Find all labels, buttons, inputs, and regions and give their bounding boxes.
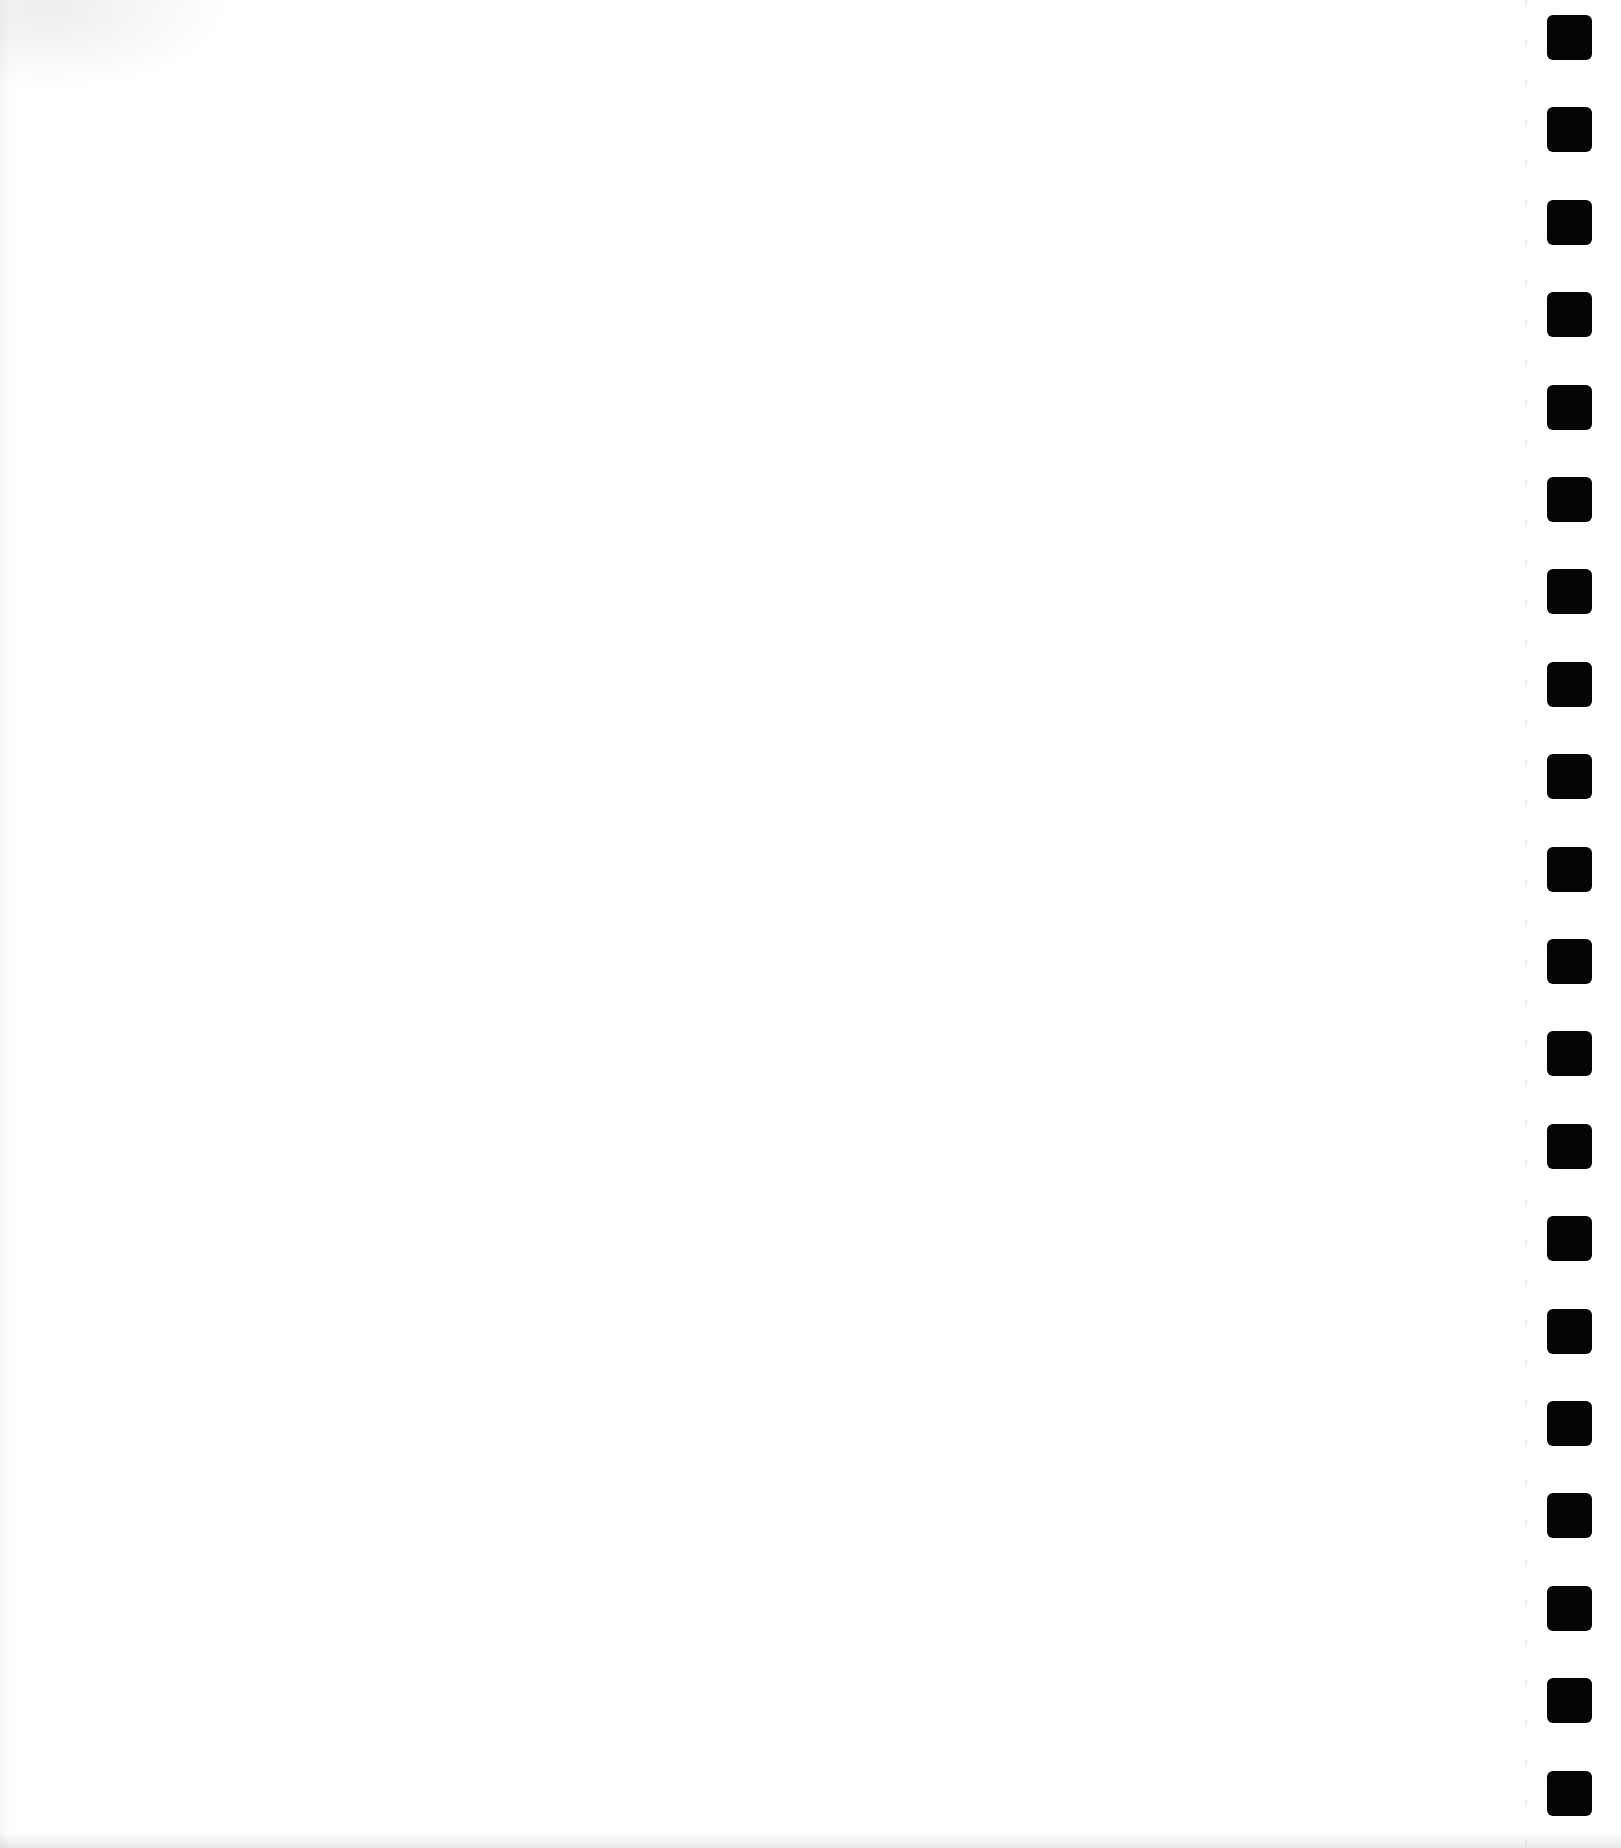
binding-hole (1547, 1031, 1592, 1076)
scan-corner-smudge (0, 0, 230, 90)
binding-hole (1547, 292, 1592, 337)
spiral-binding-holes (1547, 0, 1593, 1848)
binding-hole (1547, 1124, 1592, 1169)
binding-hole (1547, 107, 1592, 152)
binding-hole (1547, 1309, 1592, 1354)
binding-hole (1547, 569, 1592, 614)
binding-hole (1547, 477, 1592, 522)
binding-hole (1547, 385, 1592, 430)
binding-hole (1547, 1216, 1592, 1261)
binding-hole (1547, 1493, 1592, 1538)
binding-hole (1547, 1771, 1592, 1816)
binding-hole (1547, 1586, 1592, 1631)
binding-hole (1547, 754, 1592, 799)
notebook-page (0, 0, 1621, 1848)
binding-hole (1547, 1678, 1592, 1723)
binding-hole (1547, 939, 1592, 984)
binding-hole (1547, 200, 1592, 245)
binding-hole (1547, 662, 1592, 707)
binding-hole (1547, 15, 1592, 60)
perforation-line (1525, 0, 1527, 1848)
binding-hole (1547, 847, 1592, 892)
binding-hole (1547, 1401, 1592, 1446)
scan-bottom-edge (0, 1830, 1621, 1848)
